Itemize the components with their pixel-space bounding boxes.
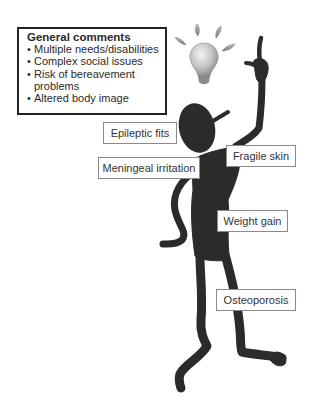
comment-item: Risk of bereavement problems [27, 68, 144, 92]
lightbulb-icon [175, 24, 235, 84]
comment-item: Complex social issues [27, 55, 165, 67]
label-osteoporosis: Osteoporosis [216, 289, 296, 311]
general-comments-title: General comments [27, 31, 165, 43]
general-comments-box: General comments Multiple needs/disabili… [17, 27, 167, 115]
general-comments-list: Multiple needs/disabilities Complex soci… [27, 43, 165, 104]
label-epileptic-fits: Epileptic fits [103, 122, 177, 144]
comment-item: Altered body image [27, 92, 165, 104]
comment-item: Multiple needs/disabilities [27, 43, 165, 55]
label-meningeal-irritation: Meningeal irritation [98, 157, 200, 179]
label-fragile-skin: Fragile skin [226, 145, 296, 167]
label-weight-gain: Weight gain [217, 210, 288, 232]
